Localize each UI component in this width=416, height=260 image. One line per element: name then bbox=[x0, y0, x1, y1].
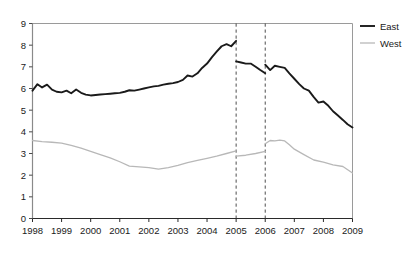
x-axis-tick-label: 2002 bbox=[138, 225, 159, 236]
series-line-east bbox=[236, 61, 265, 73]
y-axis-tick-label: 8 bbox=[21, 40, 26, 51]
x-axis-tick-label: 2007 bbox=[284, 225, 305, 236]
y-axis-tick-label: 6 bbox=[21, 83, 26, 94]
x-axis-tick-label: 1999 bbox=[51, 225, 72, 236]
x-axis-tick-label: 2004 bbox=[196, 225, 217, 236]
y-axis-tick-label: 2 bbox=[21, 170, 26, 181]
x-axis-tick-label: 2009 bbox=[342, 225, 363, 236]
legend-label-west: West bbox=[380, 38, 402, 49]
x-axis-tick-label: 2005 bbox=[226, 225, 247, 236]
legend-label-east: East bbox=[380, 21, 399, 32]
line-chart: 0123456789199819992000200120022003200420… bbox=[0, 0, 416, 260]
x-axis-tick-label: 1998 bbox=[22, 225, 43, 236]
y-axis-tick-label: 0 bbox=[21, 213, 26, 224]
series-line-west bbox=[265, 140, 352, 173]
series-line-west bbox=[236, 151, 265, 156]
series-line-east bbox=[33, 41, 237, 96]
y-axis-tick-label: 1 bbox=[21, 191, 26, 202]
series-line-east bbox=[265, 65, 352, 128]
chart-figure: 0123456789199819992000200120022003200420… bbox=[0, 0, 416, 260]
y-axis-tick-label: 9 bbox=[21, 18, 26, 29]
y-axis-tick-label: 3 bbox=[21, 148, 26, 159]
x-axis-tick-label: 2003 bbox=[167, 225, 188, 236]
x-axis-tick-label: 2000 bbox=[80, 225, 101, 236]
y-axis-tick-label: 7 bbox=[21, 61, 26, 72]
x-axis-tick-label: 2001 bbox=[109, 225, 130, 236]
x-axis-tick-label: 2008 bbox=[313, 225, 334, 236]
y-axis-tick-label: 5 bbox=[21, 105, 26, 116]
x-axis-tick-label: 2006 bbox=[255, 225, 276, 236]
series-line-west bbox=[33, 141, 237, 170]
y-axis-tick-label: 4 bbox=[21, 126, 26, 137]
